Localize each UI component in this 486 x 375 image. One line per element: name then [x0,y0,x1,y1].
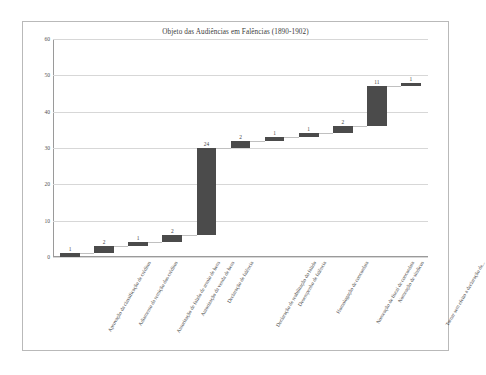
bar-value-label: 2 [239,134,242,140]
bar[interactable] [60,253,80,257]
x-axis-labels: Aprovação da classificação de créditosAd… [53,258,428,350]
gridline [53,39,428,40]
bar[interactable] [401,83,421,87]
bar[interactable] [299,133,319,137]
y-axis-tick-label: 50 [44,72,50,78]
bar-value-label: 1 [137,235,140,241]
bar[interactable] [197,148,217,235]
plot-area: 01020304050601212242112111 [53,39,428,257]
bar-value-label: 1 [307,126,310,132]
y-axis-tick-label: 30 [44,145,50,151]
y-axis-tick-label: 20 [44,181,50,187]
bar-value-label: 2 [103,239,106,245]
waterfall-connector [387,86,401,87]
waterfall-connector [148,242,162,243]
x-axis-tick-label: Aprovação da classificação de créditos [106,260,152,333]
gridline [53,184,428,185]
bar-value-label: 2 [341,119,344,125]
chart-container: Objeto das Audiências em Falências (1890… [22,21,449,351]
bar-value-label: 1 [410,76,413,82]
bar-value-label: 2 [171,228,174,234]
x-axis-tick-label: Declaração de reabilitação do falido [274,260,317,328]
gridline [53,221,428,222]
bar-value-label: 1 [273,130,276,136]
waterfall-connector [114,246,128,247]
y-axis-tick-label: 0 [47,254,50,260]
bar-value-label: 11 [374,79,379,85]
waterfall-connector [216,148,230,149]
gridline [53,148,428,149]
waterfall-connector [319,133,333,134]
y-axis-tick-label: 10 [44,218,50,224]
bar[interactable] [128,242,148,246]
bar[interactable] [333,126,353,133]
bar[interactable] [94,246,114,253]
chart-title: Objeto das Audiências em Falências (1890… [23,28,448,36]
waterfall-connector [80,253,94,254]
bar[interactable] [265,137,285,141]
bar[interactable] [231,141,251,148]
x-axis-tick-label: Nomeação de fiscal de concordata [374,260,415,325]
waterfall-connector [182,235,196,236]
waterfall-connector [353,126,367,127]
waterfall-connector [284,137,298,138]
gridline [53,75,428,76]
y-axis-tick-label: 40 [44,109,50,115]
bar-value-label: 1 [69,246,72,252]
y-axis-tick-label: 60 [44,36,50,42]
bar[interactable] [367,86,387,126]
x-axis-tick-label: Tornar sem efeito a declaração de... [444,260,486,327]
bar[interactable] [162,235,182,242]
x-axis-tick-label: Homologação de concordata [334,260,369,314]
waterfall-connector [250,141,264,142]
bar-value-label: 24 [204,141,209,147]
